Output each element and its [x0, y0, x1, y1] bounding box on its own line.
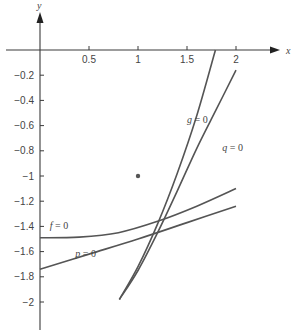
- marked-point: [136, 174, 140, 178]
- y-tick-label: −0.2: [14, 70, 34, 81]
- x-ticks: 0.511.52: [82, 46, 239, 65]
- y-tick-label: −1.6: [14, 246, 34, 257]
- y-axis-arrow-icon: [37, 12, 44, 23]
- y-tick-label: −0.6: [14, 120, 34, 131]
- x-tick-label: 1: [135, 54, 141, 65]
- x-tick-label: 0.5: [82, 54, 96, 65]
- curve-label-p: p = 0: [74, 248, 96, 259]
- x-axis-label: x: [285, 45, 291, 56]
- y-tick-label: −1.2: [14, 196, 34, 207]
- curve-g: [119, 50, 215, 299]
- points: [136, 174, 140, 178]
- y-tick-label: −0.8: [14, 145, 34, 156]
- y-tick-label: −1.4: [14, 221, 34, 232]
- curve-q: [119, 70, 236, 299]
- axes: x y: [6, 0, 291, 330]
- y-tick-label: −1.8: [14, 271, 34, 282]
- curve-label-q: q = 0: [222, 142, 243, 153]
- curve-label-g: g = 0: [187, 114, 208, 125]
- x-tick-label: 2: [233, 54, 239, 65]
- y-tick-label: −0.4: [14, 95, 34, 106]
- x-axis-arrow-icon: [270, 47, 280, 54]
- chart: x y 0.511.52 −0.2−0.4−0.6−0.8−1−1.2−1.4−…: [0, 0, 294, 335]
- curves: f = 0p = 0g = 0q = 0: [40, 50, 243, 299]
- x-tick-label: 1.5: [180, 54, 194, 65]
- y-axis-label: y: [36, 0, 42, 11]
- curve-label-f: f = 0: [50, 220, 68, 231]
- y-tick-label: −2: [23, 297, 35, 308]
- y-tick-label: −1: [23, 171, 35, 182]
- curve-f: [40, 189, 236, 238]
